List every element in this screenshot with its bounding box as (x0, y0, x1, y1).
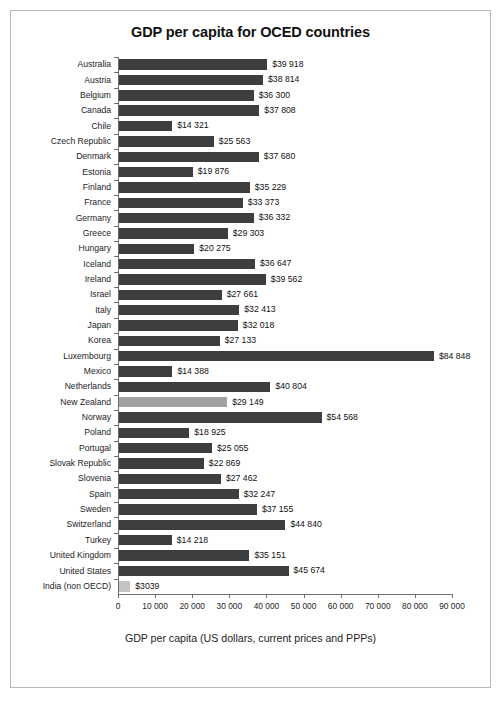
bar (119, 259, 255, 269)
bar (119, 351, 434, 361)
bar (119, 290, 222, 300)
bar-value-label: $32 413 (244, 304, 275, 314)
y-axis-tick (114, 471, 118, 472)
y-axis-tick (114, 533, 118, 534)
bar-value-label: $37 155 (262, 504, 293, 514)
bar (119, 535, 172, 545)
x-axis-tick-label: 40 000 (254, 601, 280, 611)
category-label: Korea (88, 335, 111, 345)
x-axis-tick (304, 594, 305, 598)
bar (119, 397, 227, 407)
bar-row: Slovenia$27 462 (118, 471, 452, 486)
category-label: Denmark (76, 151, 111, 161)
bar-value-label: $32 018 (243, 320, 274, 330)
bar (119, 152, 259, 162)
y-axis-tick (114, 256, 118, 257)
category-label: Greece (83, 228, 111, 238)
y-axis-tick (114, 349, 118, 350)
bar-value-label: $14 218 (177, 535, 208, 545)
category-label: United States (59, 566, 111, 576)
category-label: United Kingdom (50, 550, 111, 560)
bar-row: Iceland$36 647 (118, 256, 452, 271)
bar-value-label: $22 869 (209, 458, 240, 468)
category-label: Germany (76, 213, 111, 223)
bar-row: Chile$14 321 (118, 118, 452, 133)
bar-row: Norway$54 568 (118, 410, 452, 425)
y-axis-tick (114, 379, 118, 380)
bar (119, 489, 239, 499)
bar-value-label: $27 133 (225, 335, 256, 345)
category-label: Switzerland (67, 519, 111, 529)
bar-value-label: $54 568 (327, 412, 358, 422)
bar-value-label: $37 680 (264, 151, 295, 161)
y-axis-tick (114, 302, 118, 303)
plot-area: Australia$39 918Austria$38 814Belgium$36… (118, 57, 452, 594)
category-label: Japan (88, 320, 111, 330)
category-label: Czech Republic (51, 136, 111, 146)
category-label: Poland (84, 427, 111, 437)
bar-value-label: $39 562 (271, 274, 302, 284)
category-label: Turkey (85, 535, 111, 545)
x-axis-tick-label: 60 000 (328, 601, 354, 611)
category-label: Austria (84, 75, 111, 85)
x-axis-tick (415, 594, 416, 598)
bar (119, 136, 214, 146)
category-label: France (84, 197, 111, 207)
category-label: Belgium (80, 90, 111, 100)
x-axis-title: GDP per capita (US dollars, current pric… (11, 632, 490, 644)
bar-row: Slovak Republic$22 869 (118, 456, 452, 471)
bar-row: Denmark$37 680 (118, 149, 452, 164)
y-axis-tick (114, 149, 118, 150)
bar-value-label: $25 055 (217, 443, 248, 453)
category-label: India (non OECD) (43, 581, 111, 591)
bar-row: Netherlands$40 804 (118, 379, 452, 394)
y-axis-tick (114, 318, 118, 319)
bar-row: Turkey$14 218 (118, 533, 452, 548)
category-label: Iceland (83, 259, 111, 269)
category-label: New Zealand (60, 397, 111, 407)
y-axis-tick (114, 579, 118, 580)
bar-value-label: $29 149 (232, 397, 263, 407)
category-label: Hungary (79, 243, 111, 253)
category-label: Spain (89, 489, 111, 499)
chart-title: GDP per capita for OCED countries (11, 24, 490, 40)
y-axis-tick (114, 103, 118, 104)
y-axis-tick (114, 180, 118, 181)
bar-value-label: $39 918 (272, 59, 303, 69)
x-axis-tick-label: 10 000 (142, 601, 168, 611)
bar (119, 274, 266, 284)
bar-value-label: $14 321 (177, 120, 208, 130)
bar (119, 382, 270, 392)
bar-value-label: $25 563 (219, 136, 250, 146)
bar-value-label: $45 674 (294, 565, 325, 575)
y-axis-tick (114, 548, 118, 549)
y-axis-tick (114, 425, 118, 426)
bar-value-label: $38 814 (268, 74, 299, 84)
category-label: Australia (78, 59, 111, 69)
y-axis-tick (114, 563, 118, 564)
bar-value-label: $44 840 (290, 519, 321, 529)
bar-value-label: $3039 (135, 581, 159, 591)
category-label: Norway (82, 412, 111, 422)
category-label: Netherlands (65, 381, 111, 391)
y-axis-tick (114, 272, 118, 273)
bar (119, 213, 254, 223)
bar-value-label: $27 462 (226, 473, 257, 483)
category-label: Canada (81, 105, 111, 115)
bar-value-label: $36 332 (259, 212, 290, 222)
chart-frame: GDP per capita for OCED countries Austra… (10, 10, 491, 688)
x-axis-tick (341, 594, 342, 598)
bar (119, 443, 212, 453)
bar-row: Hungary$20 275 (118, 241, 452, 256)
bar (119, 182, 250, 192)
category-label: Portugal (79, 443, 111, 453)
y-axis-tick (114, 72, 118, 73)
category-label: Chile (91, 121, 111, 131)
bar-row: Italy$32 413 (118, 302, 452, 317)
bar-value-label: $36 300 (259, 90, 290, 100)
category-label: Ireland (85, 274, 111, 284)
x-axis-tick-label: 90 000 (439, 601, 465, 611)
bar (119, 105, 259, 115)
x-axis-tick (266, 594, 267, 598)
bar-row: New Zealand$29 149 (118, 395, 452, 410)
